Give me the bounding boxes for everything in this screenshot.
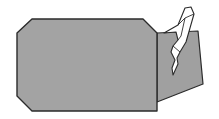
- main-body-shape: [17, 19, 157, 111]
- origami-diagram: [0, 0, 219, 119]
